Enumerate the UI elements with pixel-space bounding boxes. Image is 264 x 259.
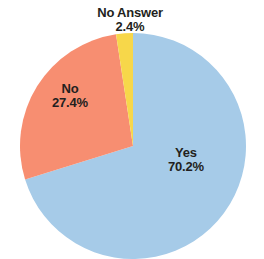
slice-label-no-answer: No Answer 2.4% (56, 6, 204, 34)
slice-label-yes-name: Yes (139, 146, 233, 160)
slice-label-yes-value: 70.2% (139, 160, 233, 174)
slice-label-no-name: No (22, 82, 118, 96)
slice-label-no: No 27.4% (22, 82, 118, 110)
slice-label-yes: Yes 70.2% (139, 146, 233, 174)
pie-chart-graphic (0, 0, 264, 259)
slice-label-no-value: 27.4% (22, 96, 118, 110)
slice-label-no-answer-name: No Answer (56, 6, 204, 20)
pie-chart: No Answer 2.4% No 27.4% Yes 70.2% (0, 0, 264, 259)
slice-label-no-answer-value: 2.4% (56, 20, 204, 34)
